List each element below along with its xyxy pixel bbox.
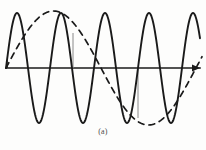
- figure-container: (a): [0, 0, 206, 150]
- figure-caption: (a): [0, 127, 206, 137]
